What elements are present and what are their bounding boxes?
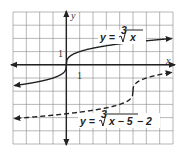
x-axis-label: x bbox=[165, 55, 171, 66]
y-axis-label: y bbox=[70, 10, 76, 21]
curve-1-left bbox=[14, 65, 66, 86]
svg-text:x: x bbox=[129, 31, 137, 43]
equation-cbrt-x: y = 3 x bbox=[98, 24, 146, 44]
y-tick-1: 1 bbox=[58, 48, 63, 59]
svg-text:y =: y = bbox=[99, 31, 115, 43]
svg-text:x − 5: x − 5 bbox=[108, 115, 133, 127]
svg-text:y =: y = bbox=[79, 115, 95, 127]
graph: y x 1 1 y = 3 x y = 3 x − 5 − 2 bbox=[0, 0, 180, 156]
x-tick-1: 1 bbox=[77, 70, 82, 81]
svg-text:− 2: − 2 bbox=[137, 115, 152, 127]
curve-2-right bbox=[133, 72, 172, 91]
